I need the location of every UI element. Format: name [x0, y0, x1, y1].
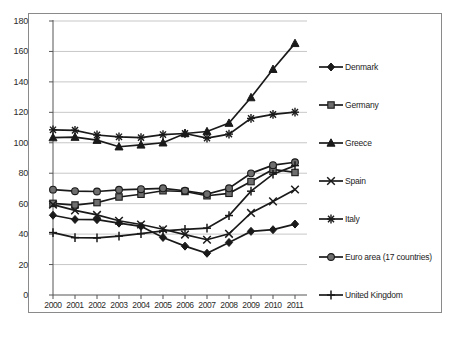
legend-item-greece[interactable]: Greece	[318, 136, 372, 150]
legend-label: Greece	[344, 138, 372, 148]
square-marker-icon	[318, 99, 344, 111]
circle-marker-icon	[318, 251, 344, 263]
legend-label: Spain	[344, 176, 366, 186]
legend-label: Germany	[344, 100, 379, 110]
legend: Denmark Germany Greece Spain Italy Euro …	[318, 22, 458, 304]
legend-item-euro-area[interactable]: Euro area (17 countries)	[318, 250, 432, 264]
legend-item-united-kingdom[interactable]: United Kingdom	[318, 288, 403, 302]
asterisk-marker-icon	[318, 213, 344, 225]
axis-lines	[49, 20, 307, 299]
series-layer	[49, 39, 299, 257]
gridlines	[53, 21, 307, 265]
diamond-marker-icon	[318, 61, 344, 73]
series-germany	[50, 166, 298, 208]
legend-item-germany[interactable]: Germany	[318, 98, 379, 112]
legend-item-denmark[interactable]: Denmark	[318, 60, 378, 74]
series-spain	[49, 186, 299, 244]
triangle-marker-icon	[318, 137, 344, 149]
legend-label: Denmark	[344, 62, 378, 72]
legend-label: United Kingdom	[344, 290, 403, 300]
legend-label: Euro area (17 countries)	[344, 252, 432, 262]
legend-item-italy[interactable]: Italy	[318, 212, 360, 226]
plus-marker-icon	[318, 289, 344, 301]
legend-label: Italy	[344, 214, 360, 224]
legend-item-spain[interactable]: Spain	[318, 174, 366, 188]
line-chart: 180 160 140 120 100 80 60 40 20 0 2000 2…	[0, 0, 460, 338]
cross-x-marker-icon	[318, 175, 344, 187]
